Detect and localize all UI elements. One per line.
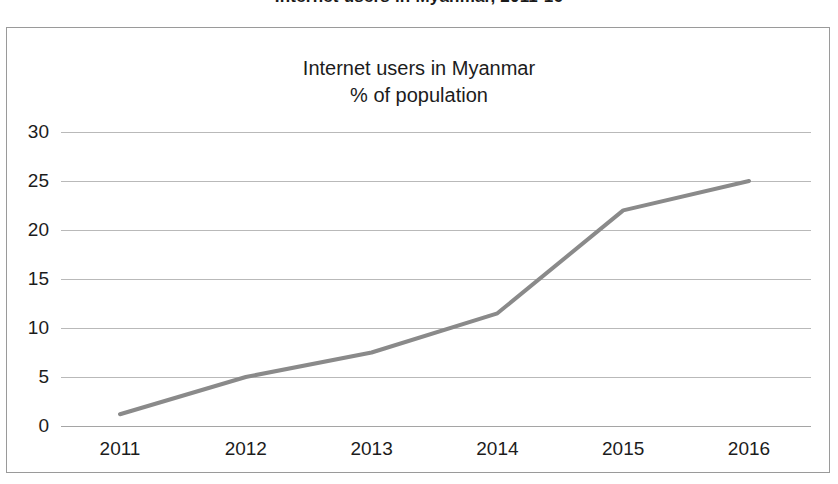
y-tick-label-25: 25 <box>28 170 49 192</box>
chart-title-line-1: Internet users in Myanmar <box>7 55 831 82</box>
top-caption: Internet users in Myanmar, 2011-16 <box>0 0 838 7</box>
chart-title-line-2: % of population <box>7 82 831 109</box>
y-tick-label-20: 20 <box>28 219 49 241</box>
y-tick-label-0: 0 <box>38 415 49 437</box>
y-tick-label-15: 15 <box>28 268 49 290</box>
data-series-line <box>61 132 811 426</box>
x-tick-label-2013: 2013 <box>350 438 392 460</box>
x-tick-label-2014: 2014 <box>476 438 518 460</box>
chart-title: Internet users in Myanmar % of populatio… <box>7 55 831 108</box>
y-tick-label-5: 5 <box>38 366 49 388</box>
x-tick-label-2011: 2011 <box>100 438 141 460</box>
plot-area: 051015202530 201120122013201420152016 <box>61 132 811 426</box>
y-tick-label-10: 10 <box>28 317 49 339</box>
x-tick-label-2016: 2016 <box>728 438 770 460</box>
x-tick-label-2015: 2015 <box>602 438 644 460</box>
gridline-0 <box>61 426 811 427</box>
chart-frame: Internet users in Myanmar % of populatio… <box>6 27 830 473</box>
y-tick-label-30: 30 <box>28 121 49 143</box>
x-tick-label-2012: 2012 <box>225 438 267 460</box>
